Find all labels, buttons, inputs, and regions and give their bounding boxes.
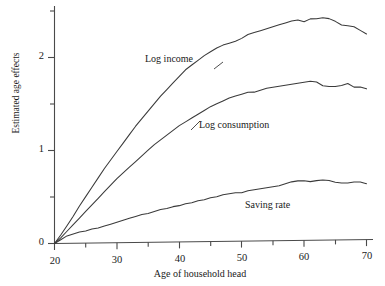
chart-plot-area [0, 0, 385, 286]
x-tick-label-50: 50 [230, 252, 254, 263]
series-line-log-consumption [55, 81, 367, 243]
x-tick-label-40: 40 [168, 253, 192, 264]
x-tick-label-20: 20 [43, 255, 67, 266]
series-lines [55, 18, 367, 244]
x-axis-title: Age of household head [120, 268, 280, 279]
series-label-saving-rate: Saving rate [245, 199, 290, 210]
x-tick-label-70: 70 [355, 250, 379, 261]
series-label-log-income: Log income [145, 53, 193, 64]
x-tick-label-30: 30 [105, 254, 129, 265]
page-bleed-text [300, 276, 382, 284]
x-axis-line [55, 240, 374, 244]
series-line-log-income [55, 18, 367, 244]
y-tick-label-0: 0 [28, 236, 44, 247]
series-line-saving-rate [55, 180, 367, 243]
y-axis-ticks-major [48, 58, 55, 244]
y-tick-label-2: 2 [28, 50, 44, 61]
chart-figure: 2 1 0 20 30 40 50 60 70 Estimated age ef… [0, 0, 385, 286]
series-label-log-consumption: Log consumption [199, 119, 269, 130]
leader-log-income [214, 62, 223, 69]
y-axis-ticks-minor [50, 11, 55, 197]
x-tick-label-60: 60 [292, 251, 316, 262]
y-tick-label-1: 1 [28, 143, 44, 154]
y-axis-title: Estimated age effects [11, 33, 21, 153]
